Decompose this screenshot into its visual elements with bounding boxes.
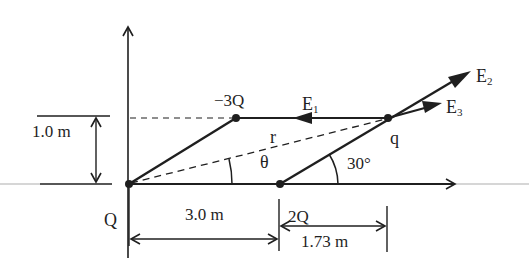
charge-q-dot: [125, 180, 133, 188]
charge-2q-dot: [276, 180, 284, 188]
charge-minus3q-dot: [232, 114, 240, 122]
line-q-to-minus3q: [129, 118, 236, 184]
e2-arrowhead-icon: [448, 71, 471, 88]
label-e3: E3: [446, 97, 463, 118]
label-2q: 2Q: [288, 207, 309, 226]
angle-30-arc: [329, 154, 338, 184]
charge-small-q-dot: [384, 114, 392, 122]
label-small-q: q: [390, 128, 399, 148]
label-minus3q: −3Q: [214, 91, 244, 110]
label-dim-height: 1.0 m: [32, 122, 71, 141]
label-e2: E2: [476, 66, 493, 87]
theta-arc: [229, 159, 232, 184]
label-angle-30: 30°: [347, 154, 371, 173]
e3-arrowhead-icon: [422, 101, 442, 113]
label-dim-3m: 3.0 m: [185, 205, 224, 224]
diagram-svg: −3Q Q 2Q q E1 E2 E3 r θ 30° 1.0 m 3.0 m …: [0, 0, 529, 262]
label-q: Q: [104, 210, 117, 230]
label-dim-173m: 1.73 m: [301, 232, 348, 251]
electric-field-diagram: −3Q Q 2Q q E1 E2 E3 r θ 30° 1.0 m 3.0 m …: [0, 0, 529, 262]
label-theta: θ: [260, 152, 269, 172]
label-r: r: [270, 127, 276, 147]
r-dashed-line: [131, 119, 386, 183]
label-e1: E1: [302, 94, 319, 115]
